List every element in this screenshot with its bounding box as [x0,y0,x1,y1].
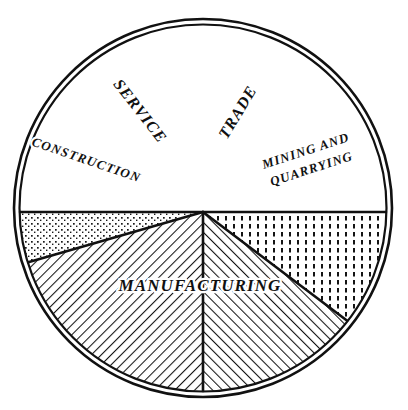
chart-figure: . . , . . . , . . . , . . . [0,0,408,410]
label-text: MANUFACTURING [118,276,282,295]
pie-label-manufacturing: MANUFACTURINGMANUFACTURING [118,276,282,295]
pie-chart-svg: MANUFACTURINGMANUFACTURINGCONSTRUCTIONCO… [0,0,408,410]
